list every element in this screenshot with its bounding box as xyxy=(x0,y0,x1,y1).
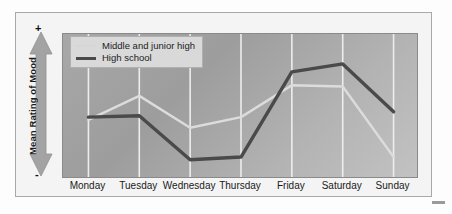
x-axis-label-wednesday: Wednesday xyxy=(163,180,216,191)
x-axis-label-saturday: Saturday xyxy=(322,180,362,191)
x-axis-label-friday: Friday xyxy=(277,180,305,191)
legend-swatch-light-line xyxy=(76,45,96,47)
x-axis-labels: MondayTuesdayWednesdayThursdayFridaySatu… xyxy=(62,180,418,196)
legend: Middle and junior high High school xyxy=(70,36,203,68)
legend-item-high-school: High school xyxy=(76,52,195,64)
legend-swatch-dark-line xyxy=(76,57,96,60)
chart-figure: + Mean Rating of Mood - Middle and junio… xyxy=(0,0,452,214)
x-axis-label-sunday: Sunday xyxy=(376,180,410,191)
legend-item-middle-junior-high: Middle and junior high xyxy=(76,40,195,52)
legend-label-middle-junior-high: Middle and junior high xyxy=(102,40,195,52)
corner-mark xyxy=(432,201,445,204)
y-axis-label: Mean Rating of Mood xyxy=(24,56,42,156)
y-axis-negative-marker: - xyxy=(35,168,39,180)
x-axis-label-thursday: Thursday xyxy=(219,180,261,191)
legend-label-high-school: High school xyxy=(102,52,152,64)
x-axis-label-tuesday: Tuesday xyxy=(119,180,157,191)
x-axis-label-monday: Monday xyxy=(70,180,106,191)
